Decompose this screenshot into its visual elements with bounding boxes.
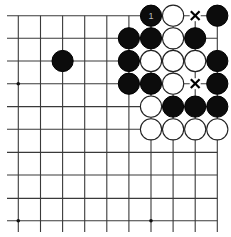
black-stone[interactable] [118,73,139,94]
black-stone[interactable] [140,28,161,49]
black-stone[interactable] [52,50,73,71]
black-stone[interactable]: 1 [140,5,161,26]
white-stone[interactable] [185,50,206,71]
go-board[interactable]: 1 [0,0,231,237]
board-stones: 1 [52,5,228,140]
black-stone[interactable] [207,96,228,117]
white-stone[interactable] [140,96,161,117]
white-stone[interactable] [163,50,184,71]
white-stone[interactable] [140,50,161,71]
white-stone[interactable] [163,73,184,94]
black-stone[interactable] [118,50,139,71]
white-stone[interactable] [185,119,206,140]
black-stone[interactable] [185,96,206,117]
black-stone[interactable] [163,96,184,117]
black-stone[interactable] [207,5,228,26]
white-stone[interactable] [163,5,184,26]
black-stone[interactable] [185,28,206,49]
black-stone[interactable] [207,73,228,94]
star-point [17,219,21,223]
black-stone[interactable] [207,50,228,71]
star-point [17,82,21,86]
x-mark-icon[interactable] [190,78,201,89]
black-stone[interactable] [140,73,161,94]
black-stone[interactable] [118,28,139,49]
white-stone[interactable] [163,119,184,140]
white-stone[interactable] [163,28,184,49]
white-stone[interactable] [140,119,161,140]
white-stone[interactable] [207,119,228,140]
star-point [149,219,153,223]
move-number-label: 1 [148,11,153,21]
x-mark-icon[interactable] [190,10,201,21]
